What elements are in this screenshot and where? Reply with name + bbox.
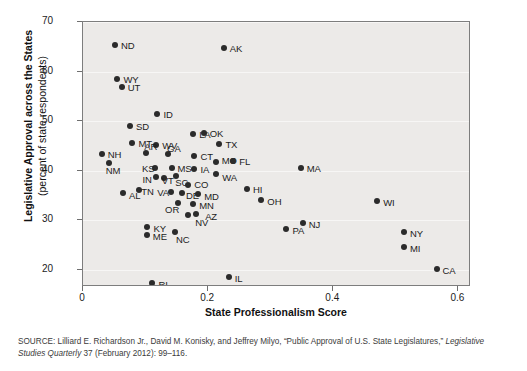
data-point-label: TX	[225, 139, 237, 150]
x-tick-label: 0	[67, 292, 97, 303]
data-point	[283, 226, 289, 232]
data-point-label: KS	[142, 163, 154, 174]
x-tick-label: 0.6	[442, 292, 472, 303]
data-point	[298, 165, 304, 171]
data-point	[216, 141, 222, 147]
x-tick-mark	[82, 286, 83, 291]
data-point-label: VT	[162, 175, 174, 186]
x-tick-mark	[207, 286, 208, 291]
data-point-label: IL	[235, 273, 243, 284]
data-point	[226, 274, 232, 280]
data-point-label: NM	[106, 165, 121, 176]
x-tick-label: 0.2	[192, 292, 222, 303]
data-point-label: GA	[167, 143, 181, 154]
y-axis-label-line1: Legislative Approval across the States	[22, 30, 34, 222]
data-point	[213, 171, 219, 177]
data-point-label: MA	[307, 163, 321, 174]
data-point-label: IA	[200, 164, 209, 175]
x-tick-label: 0.4	[317, 292, 347, 303]
y-tick-mark	[77, 219, 82, 220]
data-point	[168, 189, 174, 195]
data-point-label: NV	[195, 217, 208, 228]
gridline	[83, 72, 469, 73]
data-point	[153, 174, 159, 180]
y-tick-mark	[77, 269, 82, 270]
data-point	[144, 232, 150, 238]
x-tick-mark	[332, 286, 333, 291]
x-axis-label: State Professionalism Score	[82, 306, 470, 318]
data-point	[213, 159, 219, 165]
gridline	[83, 22, 469, 23]
y-axis-label-line2: (percent of state respondents)	[36, 56, 48, 196]
data-point-label: NJ	[309, 219, 320, 230]
data-point-label: ID	[163, 109, 172, 120]
data-point-label: NC	[176, 234, 190, 245]
data-point	[129, 140, 135, 146]
source-citation: SOURCE: Lilliard E. Richardson Jr., Davi…	[18, 336, 488, 359]
scatter-plot-area: NDAKWYUTIDSDLAOKTXMTWVNHARGACTMOFLNMKSMS…	[82, 21, 470, 286]
data-point	[434, 266, 440, 272]
data-point	[191, 153, 197, 159]
data-point	[374, 198, 380, 204]
data-point	[99, 151, 105, 157]
data-point-label: SD	[136, 121, 149, 132]
data-point-label: NY	[410, 228, 423, 239]
data-point	[230, 158, 236, 164]
x-tick-mark	[457, 286, 458, 291]
gridline	[83, 270, 469, 271]
data-point-label: AR	[144, 141, 157, 152]
data-point	[185, 212, 191, 218]
data-point-label: IN	[143, 174, 152, 185]
data-point	[144, 224, 150, 230]
data-point	[149, 280, 155, 286]
data-point	[179, 190, 185, 196]
data-point-label: FL	[239, 156, 250, 167]
data-point-label: ME	[153, 231, 167, 242]
data-point-label: MS	[177, 163, 191, 174]
data-point-label: VA	[157, 187, 169, 198]
data-point-label: RI	[158, 279, 167, 286]
data-point	[169, 165, 175, 171]
data-point-label: CO	[194, 179, 208, 190]
data-point-label: OK	[210, 128, 224, 139]
figure-container: NDAKWYUTIDSDLAOKTXMTWVNHARGACTMOFLNMKSMS…	[0, 0, 527, 371]
data-point	[185, 182, 191, 188]
data-point	[401, 229, 407, 235]
data-point	[401, 244, 407, 250]
data-point-label: UT	[128, 82, 140, 93]
data-point	[190, 131, 196, 137]
source-text: Lilliard E. Richardson Jr., David M. Kon…	[55, 337, 445, 346]
data-point	[258, 197, 264, 203]
data-point	[195, 191, 201, 197]
data-point	[190, 201, 196, 207]
data-point	[300, 220, 306, 226]
data-point-label: WI	[383, 197, 394, 208]
source-prefix: SOURCE:	[18, 337, 55, 346]
source-suffix: 37 (February 2012): 99–116.	[81, 349, 187, 358]
y-axis-label: Legislative Approval across the States (…	[21, 1, 49, 251]
data-point	[127, 123, 133, 129]
data-point	[191, 166, 197, 172]
data-point	[119, 84, 125, 90]
data-point-label: WA	[222, 172, 237, 183]
data-point-label: CT	[200, 151, 212, 162]
data-point-label: HI	[253, 184, 262, 195]
data-point-label: OR	[165, 204, 179, 215]
y-tick-label: 20	[13, 263, 53, 274]
data-point-label: NH	[108, 149, 122, 160]
data-point	[221, 45, 227, 51]
data-point-label: ND	[121, 40, 135, 51]
data-point-label: AK	[230, 43, 242, 54]
y-tick-mark	[77, 21, 82, 22]
data-point-label: MN	[199, 200, 214, 211]
gridline	[83, 220, 469, 221]
data-point-label: PA	[292, 225, 304, 236]
data-point	[112, 42, 118, 48]
data-point	[244, 186, 250, 192]
y-tick-mark	[77, 120, 82, 121]
data-point-label: MI	[410, 243, 420, 254]
data-point	[201, 130, 207, 136]
data-point-label: CA	[443, 265, 456, 276]
gridline	[83, 171, 469, 172]
y-tick-mark	[77, 71, 82, 72]
